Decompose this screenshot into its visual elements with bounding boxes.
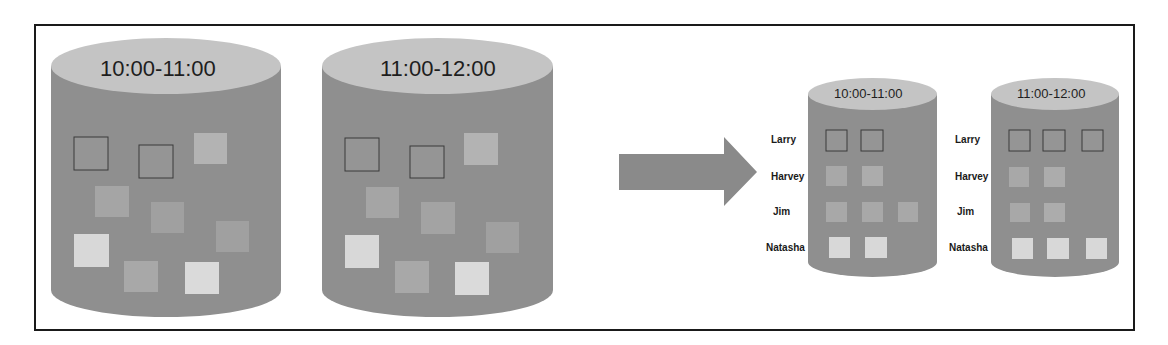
- row-label-larry: Larry: [955, 134, 980, 145]
- record-square-natasha: [865, 237, 887, 258]
- record-square-natasha: [829, 237, 850, 258]
- small-cylinder-1: [808, 78, 937, 277]
- record-square-harvey: [826, 166, 847, 186]
- record-square: [74, 137, 108, 170]
- record-square: [410, 146, 444, 178]
- record-square: [345, 235, 379, 268]
- row-label-jim: Jim: [773, 206, 790, 217]
- record-square-jim: [862, 202, 883, 222]
- record-square: [139, 145, 173, 178]
- record-square-harvey: [1009, 167, 1029, 187]
- row-label-harvey: Harvey: [955, 171, 988, 182]
- cylinder-title: 11:00-12:00: [380, 56, 496, 82]
- row-label-larry: Larry: [771, 134, 796, 145]
- record-square: [216, 221, 249, 252]
- record-square: [194, 133, 227, 164]
- record-square: [124, 261, 158, 292]
- right-arrow-icon: [619, 137, 757, 206]
- row-label-natasha: Natasha: [949, 242, 988, 253]
- record-square: [185, 262, 219, 294]
- record-square: [95, 186, 129, 217]
- record-square-natasha: [1047, 238, 1069, 259]
- record-square-larry: [1082, 130, 1103, 151]
- cylinder-title: 10:00-11:00: [100, 56, 216, 82]
- diagram-canvas: [0, 0, 1168, 345]
- cylinder-title: 11:00-12:00: [1017, 86, 1085, 101]
- record-square: [151, 202, 184, 233]
- record-square: [74, 234, 109, 267]
- small-cylinder-2: [991, 78, 1119, 277]
- record-square: [395, 261, 429, 293]
- record-square: [345, 138, 379, 171]
- record-square-larry: [826, 130, 847, 151]
- record-square: [486, 222, 519, 253]
- cylinder-title: 10:00-11:00: [834, 86, 902, 101]
- record-square-jim: [826, 202, 847, 222]
- record-square-harvey: [1044, 167, 1065, 187]
- row-label-harvey: Harvey: [771, 171, 804, 182]
- record-square: [366, 187, 399, 218]
- row-label-natasha: Natasha: [766, 242, 805, 253]
- record-square-jim: [1044, 203, 1065, 222]
- record-square-larry: [861, 130, 883, 151]
- record-square-jim: [898, 202, 918, 222]
- row-label-jim: Jim: [957, 206, 974, 217]
- record-square-natasha: [1012, 238, 1033, 259]
- record-square-larry: [1009, 130, 1030, 151]
- record-square: [421, 202, 455, 234]
- record-square: [455, 262, 489, 295]
- record-square-harvey: [862, 166, 883, 186]
- record-square: [464, 133, 498, 165]
- record-square-jim: [1010, 203, 1030, 222]
- record-square-larry: [1043, 130, 1065, 151]
- record-square-natasha: [1086, 238, 1107, 259]
